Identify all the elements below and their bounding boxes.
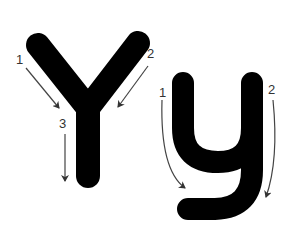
stroke-order-diagram: 1 2 3 1 2 [0,0,293,244]
stroke-1-label: 1 [16,52,23,67]
lowercase-y-letter [183,83,252,209]
lowercase-stroke-1-label: 1 [159,85,166,100]
arrow-curve-down-icon [266,100,275,197]
stroke-3-label: 3 [59,116,66,131]
stroke-2-label: 2 [147,46,154,61]
lowercase-stroke-2-label: 2 [268,82,275,97]
lowercase-stroke-2: 2 [266,82,275,197]
uppercase-stroke-3: 3 [59,116,66,181]
uppercase-y-letter [38,43,138,176]
